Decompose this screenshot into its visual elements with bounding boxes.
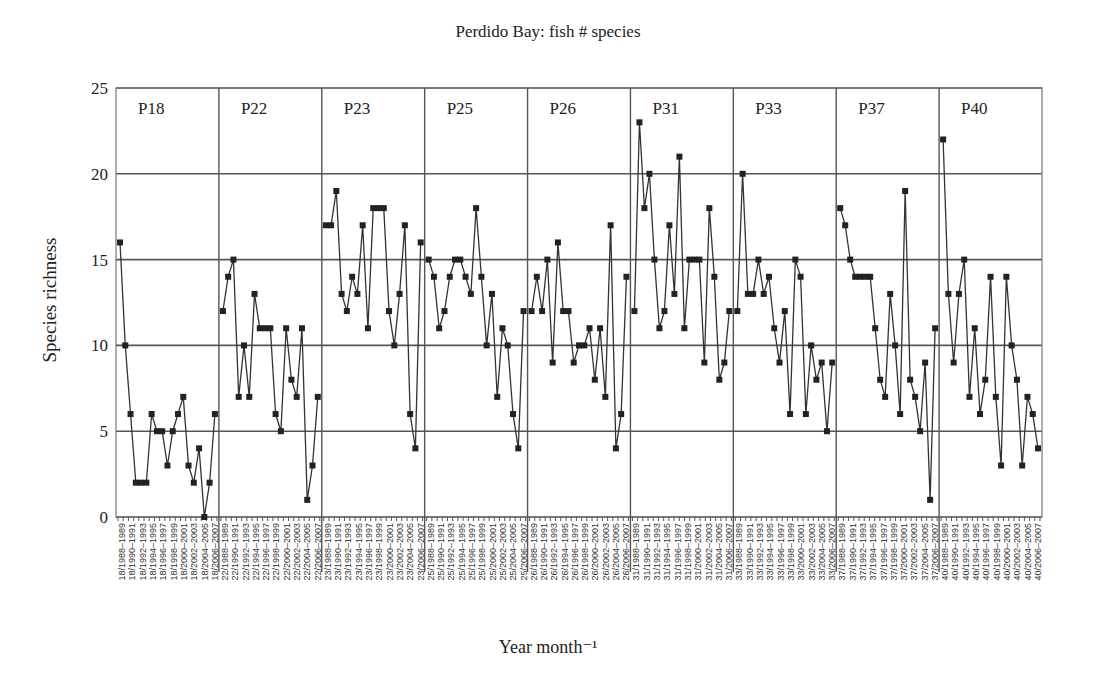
data-point (951, 360, 957, 366)
data-point (252, 291, 258, 297)
data-point (623, 274, 629, 280)
data-point (808, 342, 814, 348)
data-point (581, 342, 587, 348)
x-tick-label: 26/1998–1999 (580, 523, 590, 581)
data-point (375, 205, 381, 211)
x-tick-label: 25/1990–1991 (436, 523, 446, 581)
x-tick-label: 26/1992–1993 (549, 523, 559, 581)
x-tick-label: 23/2002–2003 (395, 523, 405, 581)
x-tick-label: 18/1996–1997 (158, 523, 168, 581)
x-tick-label: 40/2004–2005 (1023, 523, 1033, 581)
data-point (452, 257, 458, 263)
data-point (138, 480, 144, 486)
data-point (907, 377, 913, 383)
x-tick-label: 33/1998–1999 (786, 523, 796, 581)
series-line (120, 242, 215, 517)
x-tick-label: 18/1990–1991 (127, 523, 137, 581)
x-tick-label: 22/1988–1989 (220, 523, 230, 581)
data-point (122, 342, 128, 348)
data-point (813, 377, 819, 383)
data-point (998, 463, 1004, 469)
y-tick-label: 10 (91, 336, 108, 355)
data-point (154, 428, 160, 434)
x-tick-label: 25/1994–1995 (457, 523, 467, 581)
x-tick-label: 25/2000–2001 (488, 523, 498, 581)
data-point (360, 222, 366, 228)
data-point (484, 342, 490, 348)
x-tick-label: 23/2004–2005 (405, 523, 415, 581)
data-point (641, 205, 647, 211)
panel-label: P22 (241, 99, 267, 118)
data-point (842, 222, 848, 228)
x-tick-label: 33/2000–2001 (796, 523, 806, 581)
data-point (656, 325, 662, 331)
x-tick-label: 31/2004–2005 (714, 523, 724, 581)
data-point (887, 291, 893, 297)
data-point (956, 291, 962, 297)
x-tick-label: 40/2002–2003 (1012, 523, 1022, 581)
data-point (661, 308, 667, 314)
x-tick-label: 33/1988–1989 (734, 523, 744, 581)
series-line (737, 174, 832, 431)
data-point (354, 291, 360, 297)
data-point (631, 308, 637, 314)
data-point (576, 342, 582, 348)
series-line (943, 139, 1038, 465)
x-tick-label: 25/2002–2003 (498, 523, 508, 581)
data-point (225, 274, 231, 280)
x-tick-label: 26/1990–1991 (539, 523, 549, 581)
data-point (966, 394, 972, 400)
panel-label: P26 (550, 99, 576, 118)
x-tick-label: 37/1988–1989 (837, 523, 847, 581)
data-point (426, 257, 432, 263)
data-point (608, 222, 614, 228)
data-point (740, 171, 746, 177)
data-point (207, 480, 213, 486)
data-point (745, 291, 751, 297)
data-point (982, 377, 988, 383)
data-point (824, 428, 830, 434)
data-point (159, 428, 165, 434)
data-point (164, 463, 170, 469)
series-line (326, 191, 421, 448)
x-tick-label: 40/1998–1999 (992, 523, 1002, 581)
x-tick-label: 37/1992–1993 (858, 523, 868, 581)
x-tick-label: 26/1994–1995 (560, 523, 570, 581)
data-point (267, 325, 273, 331)
data-point (701, 360, 707, 366)
x-tick-label: 40/2000–2001 (1002, 523, 1012, 581)
data-point (602, 394, 608, 400)
data-point (977, 411, 983, 417)
x-tick-label: 37/2000–2001 (899, 523, 909, 581)
data-point (902, 188, 908, 194)
data-point (777, 360, 783, 366)
x-tick-label: 23/1992–1993 (343, 523, 353, 581)
data-point (646, 171, 652, 177)
x-tick-label: 31/1996–1997 (673, 523, 683, 581)
data-point (463, 274, 469, 280)
data-point (1024, 394, 1030, 400)
data-point (1019, 463, 1025, 469)
x-tick-label: 31/1994–1995 (662, 523, 672, 581)
data-point (304, 497, 310, 503)
data-point (412, 445, 418, 451)
data-point (294, 394, 300, 400)
x-tick-label: 37/2004–2005 (920, 523, 930, 581)
data-point (711, 274, 717, 280)
data-point (872, 325, 878, 331)
x-tick-label: 22/2000–2001 (282, 523, 292, 581)
data-point (191, 480, 197, 486)
data-point (180, 394, 186, 400)
data-point (940, 136, 946, 142)
x-tick-label: 26/2002–2003 (601, 523, 611, 581)
data-point (529, 308, 535, 314)
data-point (550, 360, 556, 366)
x-tick-label: 22/2004–2005 (302, 523, 312, 581)
data-point (149, 411, 155, 417)
data-point (521, 308, 527, 314)
data-point (288, 377, 294, 383)
data-point (397, 291, 403, 297)
data-point (1003, 274, 1009, 280)
data-point (945, 291, 951, 297)
data-point (468, 291, 474, 297)
